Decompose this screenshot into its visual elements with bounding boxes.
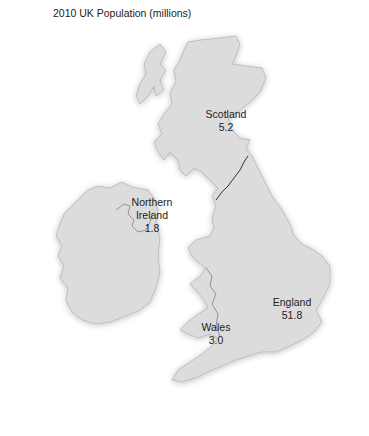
label-northern-ireland: Northern Ireland 1.8 bbox=[124, 196, 180, 235]
region-name: Scotland bbox=[196, 108, 256, 121]
label-england: England 51.8 bbox=[262, 296, 322, 322]
region-name-line1: Northern bbox=[124, 196, 180, 209]
region-name: Wales bbox=[191, 321, 241, 334]
label-scotland: Scotland 5.2 bbox=[196, 108, 256, 134]
region-name: England bbox=[262, 296, 322, 309]
uk-map bbox=[0, 0, 369, 436]
region-name-line2: Ireland bbox=[124, 209, 180, 222]
region-value: 3.0 bbox=[191, 334, 241, 347]
region-value: 5.2 bbox=[196, 121, 256, 134]
region-value: 51.8 bbox=[262, 309, 322, 322]
region-value: 1.8 bbox=[124, 222, 180, 235]
label-wales: Wales 3.0 bbox=[191, 321, 241, 347]
